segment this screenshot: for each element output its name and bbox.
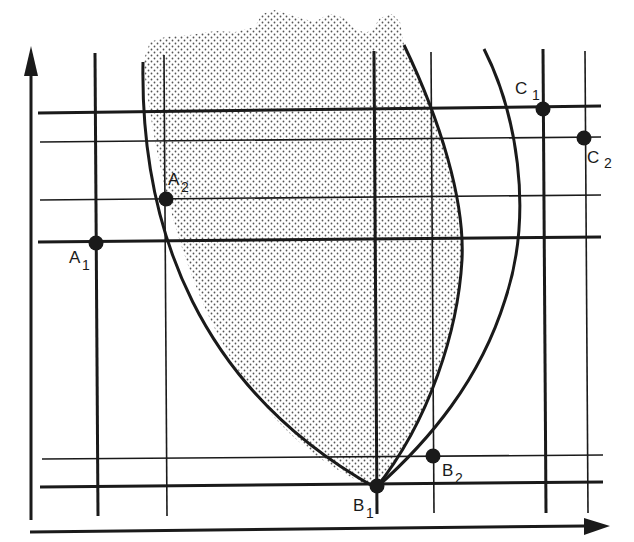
- h-line-6: [40, 482, 603, 487]
- point-C2-sub: 2: [604, 155, 612, 171]
- point-C1: C 1: [515, 79, 551, 117]
- shaded-region: [143, 10, 462, 488]
- x-axis: [30, 518, 610, 535]
- point-A1-marker: [89, 236, 104, 251]
- point-B1-label: B: [353, 496, 364, 515]
- diagram-canvas: A 1 A 2 B 1 B 2 C 1 C 2: [0, 0, 634, 542]
- point-B2-marker: [426, 449, 441, 464]
- point-A2-marker: [159, 192, 174, 207]
- y-axis-arrow-icon: [24, 46, 38, 76]
- point-C1-label: C: [515, 79, 527, 98]
- v-line-6: [585, 51, 588, 513]
- point-A2-label: A: [168, 170, 180, 189]
- point-C1-sub: 1: [532, 87, 540, 103]
- point-B2: B 2: [426, 449, 464, 487]
- point-B2-sub: 2: [455, 470, 463, 486]
- y-axis: [24, 46, 38, 520]
- point-A2-sub: 2: [181, 179, 189, 195]
- point-B1-marker: [370, 479, 385, 494]
- v-line-5: [543, 49, 546, 513]
- point-C2-marker: [577, 131, 592, 146]
- point-A1-label: A: [69, 248, 81, 267]
- point-C1-marker: [536, 102, 551, 117]
- point-B2-label: B: [442, 461, 453, 480]
- point-B1-sub: 1: [366, 505, 374, 521]
- v-line-1: [95, 53, 98, 516]
- x-axis-arrow-icon: [584, 518, 610, 535]
- point-C2-label: C: [587, 148, 599, 167]
- point-A1-sub: 1: [82, 257, 90, 273]
